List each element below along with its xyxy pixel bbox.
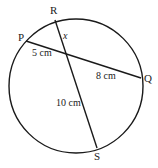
label-10cm: 10 cm: [56, 98, 81, 108]
chord-rs: [55, 20, 97, 148]
point-p-label: P: [18, 32, 24, 43]
label-x: x: [63, 31, 67, 41]
circle-diagram: [0, 0, 158, 168]
point-s-label: S: [94, 151, 100, 162]
point-r-label: R: [50, 5, 57, 16]
label-8cm: 8 cm: [96, 71, 116, 81]
point-q-label: Q: [144, 73, 152, 84]
label-5cm: 5 cm: [32, 48, 52, 58]
